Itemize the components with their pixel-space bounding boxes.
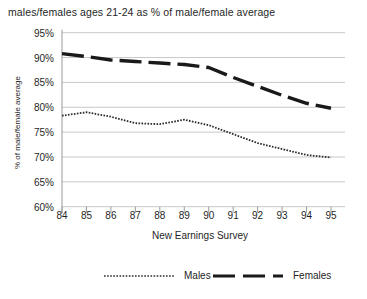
x-tick-label: 88 (147, 210, 173, 221)
x-tick-label: 84 (49, 210, 75, 221)
legend-swatch-males (103, 271, 175, 281)
x-tick-label: 95 (318, 210, 344, 221)
legend-label-females: Females (293, 270, 331, 281)
x-tick-label: 91 (220, 210, 246, 221)
y-tick-label: 70% (20, 151, 54, 162)
x-tick-label: 85 (73, 210, 99, 221)
legend-item-males: Males (103, 270, 211, 281)
x-axis-title: New Earnings Survey (55, 230, 345, 241)
x-tick-label: 86 (98, 210, 124, 221)
x-tick-label: 94 (294, 210, 320, 221)
chart-legend: Males Females (0, 270, 367, 292)
y-tick-label: 90% (20, 52, 54, 63)
legend-swatch-females (212, 271, 284, 281)
y-tick-label: 85% (20, 77, 54, 88)
plot-area (0, 0, 367, 299)
y-tick-label: 65% (20, 176, 54, 187)
x-tick-label: 89 (171, 210, 197, 221)
y-tick-label: 95% (20, 27, 54, 38)
chart-container: males/females ages 21-24 as % of male/fe… (0, 0, 367, 299)
y-tick-label: 80% (20, 102, 54, 113)
x-tick-label: 87 (122, 210, 148, 221)
legend-label-males: Males (184, 270, 211, 281)
x-tick-label: 93 (269, 210, 295, 221)
y-axis-tick-labels: 60%65%70%75%80%85%90%95% (16, 0, 54, 299)
series-lines (62, 54, 331, 158)
x-tick-label: 92 (245, 210, 271, 221)
y-tick-label: 75% (20, 127, 54, 138)
legend-item-females: Females (212, 270, 331, 281)
x-tick-label: 90 (196, 210, 222, 221)
